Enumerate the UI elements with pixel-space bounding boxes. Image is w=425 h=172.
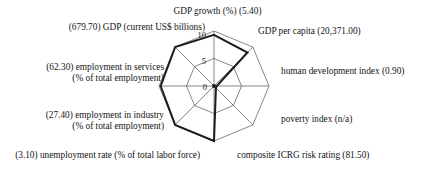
axis-label-human-development-index: human development index (0.90) — [281, 66, 425, 77]
axis-label-icrg-risk-rating: composite ICRG risk rating (81.50) — [237, 150, 425, 161]
axis-label-employment-industry-line1: (27.40) employment in industry — [14, 110, 164, 121]
axis-label-poverty-index: poverty index (n/a) — [281, 114, 425, 125]
axis-label-employment-services-line1: (62.30) employment in services — [6, 62, 164, 73]
radial-tick-0: 0 — [203, 82, 207, 92]
radial-tick-5: 5 — [202, 56, 206, 66]
axis-label-employment-services-line2: (% of total employment) — [6, 73, 164, 84]
axis-label-gdp-total: (679.70) GDP (current US$ billions) — [10, 22, 205, 33]
center-point — [212, 84, 216, 88]
axis-label-gdp-growth: GDP growth (%) (5.40) — [145, 6, 290, 17]
axis-label-unemployment-rate: (3.10) unemployment rate (% of total lab… — [0, 150, 200, 161]
axis-label-employment-industry-line2: (% of total employment) — [14, 121, 164, 132]
axis-label-gdp-per-capita: GDP per capita (20,371.00) — [258, 26, 423, 37]
radar-chart: 10 5 0 GDP growth (%) (5.40) (679.70) GD… — [0, 0, 425, 172]
